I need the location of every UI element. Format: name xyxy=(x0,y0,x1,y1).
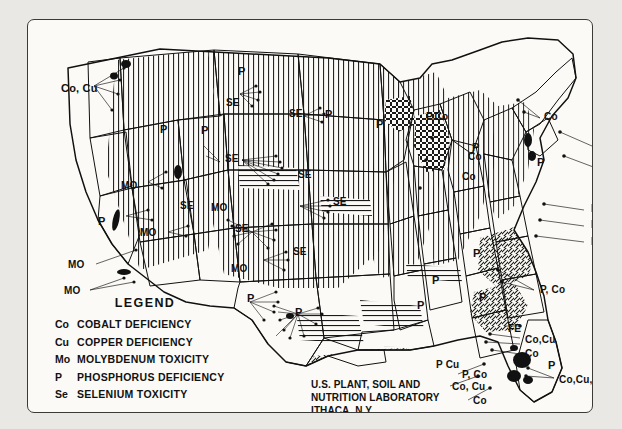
legend-entry-p: PPhosphorus Deficiency xyxy=(55,371,235,383)
map-label-co-cu-mo-florida: Co,Cu,Mo xyxy=(559,375,593,385)
legend-entry-co: CoCobalt Deficiency xyxy=(55,318,235,330)
legend: LEGEND CoCobalt DeficiencyCuCopper Defic… xyxy=(55,296,235,413)
credit-line-1: U.S. PLANT, SOIL AND xyxy=(311,378,486,391)
map-label-mo-nevada-n: MO xyxy=(121,181,138,191)
map-label-fe-georgia: FE xyxy=(508,324,521,334)
map-label-mo-california-sw: MO xyxy=(64,286,81,296)
legend-key-description: Cobalt Deficiency xyxy=(77,318,192,330)
map-label-se-utah: SE xyxy=(180,201,194,211)
legend-key-symbol: Cu xyxy=(55,336,77,348)
map-label-se-montana-e: SE xyxy=(289,109,303,119)
legend-key-description: Selenium Toxicity xyxy=(77,388,188,400)
map-label-se-kansas: SE xyxy=(333,197,347,207)
legend-key-description: Molybdenum Toxicity xyxy=(77,353,209,365)
map-label-p-kentucky: P xyxy=(473,248,481,259)
map-label-co-cu-pacific-nw: Co, Cu xyxy=(61,83,98,94)
legend-key-symbol: Se xyxy=(55,388,77,400)
map-label-p-dakota-n: P xyxy=(325,109,333,120)
credit-line-3: ITHACA, N.Y. xyxy=(311,404,486,413)
legend-key-symbol: Co xyxy=(55,318,77,330)
map-label-se-wyoming: SE xyxy=(225,154,239,164)
legend-key-description: Copper Deficiency xyxy=(77,336,193,348)
map-label-p-co-michigan-n: P,Co xyxy=(426,112,448,122)
legend-entry-se: SeSelenium Toxicity xyxy=(55,388,235,400)
map-label-p-montana: P xyxy=(238,66,246,77)
map-label-p-newmexico: P xyxy=(247,293,255,304)
map-frame: Co, CuPSESEPPPPP,CoCoSECoPCoCoMOSECoPCoM… xyxy=(27,19,593,413)
map-label-p-co-cu-mid-atl1: P, Co,Cu xyxy=(591,220,593,230)
map-label-se-dakota-n: SE xyxy=(226,98,240,108)
map-label-p-texas-n: P xyxy=(295,307,303,318)
legend-key-symbol: P xyxy=(55,371,77,383)
map-label-p-co-virginia: P, Co xyxy=(540,285,565,295)
map-label-se-oklahoma-n: SE xyxy=(293,247,307,257)
map-label-p-arkansas: P xyxy=(417,300,425,311)
map-label-mo-newmexico: MO xyxy=(231,264,248,274)
map-label-co-cu-georgia: Co,Cu xyxy=(525,335,555,345)
goiter-belt-region xyxy=(106,50,534,288)
legend-key-description: Phosphorus Deficiency xyxy=(77,371,225,383)
map-label-p-cu-louisiana: P Cu xyxy=(436,360,459,370)
map-label-co-georgia: Co xyxy=(525,349,539,359)
legend-entry-mo: MoMolybdenum Toxicity xyxy=(55,353,235,365)
map-label-p-tennessee: P xyxy=(432,275,440,286)
legend-entry-list: CoCobalt DeficiencyCuCopper DeficiencyMo… xyxy=(55,318,235,400)
map-label-mo-california-s: MO xyxy=(68,260,85,270)
map-label-p-newyork: P xyxy=(537,157,545,168)
map-label-mo-california-c: MO xyxy=(140,228,157,238)
screenshot-root: Co, CuPSESEPPPPP,CoCoSECoPCoCoMOSECoPCoM… xyxy=(0,0,622,429)
map-label-p-co-cu-mid-atl2: P, Co,Cu xyxy=(591,237,593,247)
map-label-mo-nevada: MO xyxy=(211,203,228,213)
map-label-p-carolina: P xyxy=(479,292,487,303)
map-label-p-idaho: P xyxy=(160,124,168,135)
map-label-co-ohio: Co xyxy=(462,172,476,182)
map-label-p-florida-s: P xyxy=(516,411,524,413)
map-label-p-minnesota: P xyxy=(376,119,384,130)
map-label-p-co-mid-atl1: P, Co xyxy=(591,204,593,214)
map-label-se-nebraska-n: SE xyxy=(298,170,312,180)
map-label-p-wyoming-n: P xyxy=(201,125,209,136)
legend-heading: LEGEND xyxy=(55,296,235,310)
map-label-co-newengland-n: Co xyxy=(544,112,558,122)
laboratory-credit: U.S. PLANT, SOIL AND NUTRITION LABORATOR… xyxy=(311,378,486,413)
credit-line-2: NUTRITION LABORATORY xyxy=(311,391,486,404)
map-label-co-michigan: Co xyxy=(468,152,482,162)
legend-entry-cu: CuCopper Deficiency xyxy=(55,336,235,348)
map-label-p-florida-n: P xyxy=(548,360,556,371)
map-label-se-colorado: SE xyxy=(235,224,249,234)
map-label-p-california-n: P xyxy=(98,216,106,227)
legend-key-symbol: Mo xyxy=(55,353,77,365)
